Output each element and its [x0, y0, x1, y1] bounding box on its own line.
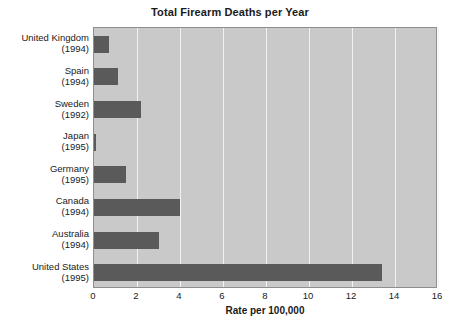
y-axis-category-labels: United Kingdom(1994)Spain(1994)Sweden(19…: [0, 27, 89, 288]
x-axis-tick-4: 4: [176, 290, 181, 301]
x-axis-tick-2: 2: [133, 290, 138, 301]
chart-screenshot: Total Firearm Deaths per Year United Kin…: [0, 0, 460, 329]
y-axis-label-year: (1995): [0, 174, 89, 185]
y-axis-label-year: (1995): [0, 272, 89, 283]
y-axis-label-canada: Canada(1994): [0, 195, 89, 217]
y-axis-label-germany: Germany(1995): [0, 163, 89, 185]
y-axis-label-sweden: Sweden(1992): [0, 98, 89, 120]
y-axis-label-japan: Japan(1995): [0, 130, 89, 152]
y-axis-label-country: United States: [0, 261, 89, 272]
bar: [94, 36, 109, 53]
x-axis-tick-8: 8: [262, 290, 267, 301]
y-axis-label-year: (1994): [0, 239, 89, 250]
x-axis-tick-10: 10: [303, 290, 314, 301]
y-axis-label-year: (1992): [0, 109, 89, 120]
y-axis-label-country: Canada: [0, 195, 89, 206]
y-axis-label-country: Germany: [0, 163, 89, 174]
y-axis-label-country: Spain: [0, 65, 89, 76]
x-axis-title: Rate per 100,000: [93, 305, 437, 316]
bar: [94, 166, 126, 183]
x-axis-tick-0: 0: [90, 290, 95, 301]
y-axis-label-year: (1994): [0, 206, 89, 217]
bar: [94, 68, 118, 85]
y-axis-label-australia: Australia(1994): [0, 228, 89, 250]
y-axis-label-united-states: United States(1995): [0, 261, 89, 283]
gridline-x-16: [438, 28, 439, 287]
y-axis-label-united-kingdom: United Kingdom(1994): [0, 32, 89, 54]
y-axis-label-country: United Kingdom: [0, 32, 89, 43]
chart-title: Total Firearm Deaths per Year: [0, 6, 460, 18]
y-axis-label-year: (1995): [0, 141, 89, 152]
x-axis-tick-6: 6: [219, 290, 224, 301]
x-axis-tick-16: 16: [432, 290, 443, 301]
y-axis-label-spain: Spain(1994): [0, 65, 89, 87]
y-axis-label-year: (1994): [0, 76, 89, 87]
bar: [94, 264, 382, 281]
y-axis-label-country: Australia: [0, 228, 89, 239]
x-axis-tick-14: 14: [389, 290, 400, 301]
y-axis-label-country: Japan: [0, 130, 89, 141]
plot-area: [93, 27, 437, 288]
x-axis-tick-12: 12: [346, 290, 357, 301]
bar: [94, 101, 141, 118]
y-axis-label-year: (1994): [0, 43, 89, 54]
bar: [94, 199, 180, 216]
bar: [94, 134, 96, 151]
x-axis-tick-labels: 0246810121416: [93, 290, 437, 304]
bars-layer: [94, 28, 436, 287]
bar: [94, 232, 159, 249]
y-axis-label-country: Sweden: [0, 98, 89, 109]
